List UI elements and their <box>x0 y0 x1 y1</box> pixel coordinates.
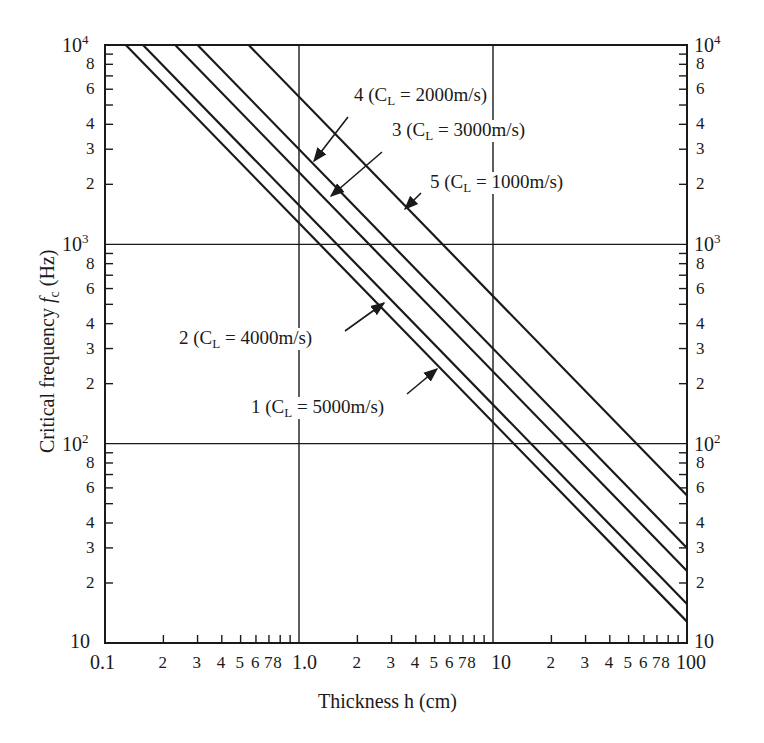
y-minor-tick-label-left: 4 <box>86 514 95 531</box>
y-minor-tick-label-right: 3 <box>696 140 705 157</box>
y-minor-tick-label-left: 3 <box>86 539 95 556</box>
y-minor-tick-label-right: 8 <box>696 454 705 471</box>
y-minor-tick-label-right: 4 <box>696 315 705 332</box>
x-minor-tick-label: 5 <box>430 654 439 671</box>
y-minor-tick-label-left: 3 <box>86 340 95 357</box>
x-minor-tick-label: 7 <box>458 654 467 671</box>
x-axis-title: Thickness h (cm) <box>318 690 457 713</box>
y-minor-tick-label-left: 8 <box>86 454 95 471</box>
y-tick-label-right: 102 <box>694 432 721 454</box>
x-minor-tick-label: 4 <box>411 654 420 671</box>
x-minor-tick-label: 5 <box>236 654 245 671</box>
y-axis-title: Critical frequency fc (Hz) <box>36 250 63 453</box>
x-minor-tick-label: 4 <box>605 654 614 671</box>
y-minor-tick-label-left: 2 <box>86 574 95 591</box>
y-tick-label-left: 102 <box>62 432 89 454</box>
y-minor-tick-label-right: 6 <box>696 479 705 496</box>
y-tick-label-right: 103 <box>694 232 721 254</box>
y-minor-tick-label-right: 2 <box>696 375 705 392</box>
y-tick-label-left: 104 <box>62 33 89 55</box>
annotation-arrows <box>314 117 437 394</box>
annotation-arrow-2 <box>345 303 384 331</box>
x-tick-label: 1.0 <box>292 652 317 672</box>
series-line-5 <box>249 45 687 495</box>
y-tick-label-right: 104 <box>694 33 721 55</box>
y-minor-tick-label-left: 6 <box>86 280 95 297</box>
series-label-5: 5 (CL = 1000m/s) <box>428 172 565 194</box>
y-minor-tick-label-left: 4 <box>86 315 95 332</box>
x-minor-tick-label: 3 <box>193 654 202 671</box>
y-tick-label-left: 10 <box>70 631 90 651</box>
y-minor-tick-label-right: 4 <box>696 514 705 531</box>
y-minor-tick-label-right: 6 <box>696 80 705 97</box>
annotation-arrow-5 <box>405 193 421 209</box>
y-minor-tick-label-right: 6 <box>696 280 705 297</box>
y-minor-tick-label-left: 6 <box>86 479 95 496</box>
series-label-1: 1 (CL = 5000m/s) <box>249 397 386 419</box>
y-minor-tick-label-right: 3 <box>696 539 705 556</box>
y-minor-tick-label-left: 3 <box>86 140 95 157</box>
y-tick-label-right: 10 <box>694 631 714 651</box>
x-tick-label: 100 <box>676 652 706 672</box>
critical-frequency-chart <box>0 0 764 743</box>
x-minor-tick-label: 8 <box>273 654 282 671</box>
y-minor-tick-label-right: 2 <box>696 175 705 192</box>
y-tick-label-left: 103 <box>62 232 89 254</box>
y-minor-tick-label-left: 8 <box>86 55 95 72</box>
x-minor-tick-label: 2 <box>352 654 361 671</box>
y-minor-tick-label-right: 8 <box>696 255 705 272</box>
annotation-arrow-1 <box>407 369 437 394</box>
x-minor-tick-label: 7 <box>264 654 273 671</box>
x-minor-tick-label: 3 <box>581 654 590 671</box>
series-label-2: 2 (CL = 4000m/s) <box>177 328 314 350</box>
x-minor-tick-label: 8 <box>467 654 476 671</box>
annotation-arrow-4 <box>314 117 348 161</box>
y-minor-tick-label-right: 4 <box>696 115 705 132</box>
x-minor-tick-label: 5 <box>624 654 633 671</box>
y-minor-tick-label-right: 2 <box>696 574 705 591</box>
x-minor-tick-label: 6 <box>445 654 454 671</box>
y-minor-tick-label-right: 8 <box>696 55 705 72</box>
x-minor-tick-label: 4 <box>217 654 226 671</box>
y-minor-tick-label-left: 6 <box>86 80 95 97</box>
y-minor-tick-label-left: 2 <box>86 175 95 192</box>
x-minor-tick-label: 8 <box>661 654 670 671</box>
y-minor-tick-label-left: 2 <box>86 375 95 392</box>
series-label-3: 3 (CL = 3000m/s) <box>390 120 527 142</box>
x-minor-tick-label: 7 <box>652 654 661 671</box>
x-minor-tick-label: 6 <box>251 654 260 671</box>
series-label-4: 4 (CL = 2000m/s) <box>352 85 489 107</box>
y-minor-tick-label-left: 4 <box>86 115 95 132</box>
x-minor-tick-label: 2 <box>158 654 167 671</box>
x-tick-label: 0.1 <box>90 652 115 672</box>
x-tick-label: 10 <box>491 652 511 672</box>
y-minor-tick-label-left: 8 <box>86 255 95 272</box>
y-minor-tick-label-right: 3 <box>696 340 705 357</box>
x-minor-tick-label: 2 <box>546 654 555 671</box>
x-minor-tick-label: 3 <box>387 654 396 671</box>
x-minor-tick-label: 6 <box>639 654 648 671</box>
